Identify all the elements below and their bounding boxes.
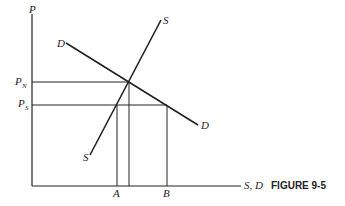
a-label: A bbox=[112, 187, 120, 199]
demand-label-bottom: D bbox=[200, 119, 209, 131]
ps-subscript: S bbox=[25, 104, 29, 112]
x-axis-label: S, D bbox=[244, 179, 263, 191]
supply-demand-diagram: P P N P S D D S S A B S, D FIGURE 9-5 bbox=[0, 0, 345, 206]
supply-label-bottom: S bbox=[83, 151, 89, 163]
figure-label: FIGURE 9-5 bbox=[271, 180, 326, 191]
demand-label-top: D bbox=[56, 37, 65, 49]
supply-curve bbox=[90, 20, 161, 155]
y-axis-label: P bbox=[28, 3, 36, 15]
demand-curve bbox=[66, 43, 198, 125]
ps-label: P bbox=[17, 97, 25, 109]
supply-label-top: S bbox=[163, 14, 169, 26]
pn-subscript: N bbox=[21, 82, 27, 90]
b-label: B bbox=[163, 187, 170, 199]
pn-label: P bbox=[14, 75, 22, 87]
